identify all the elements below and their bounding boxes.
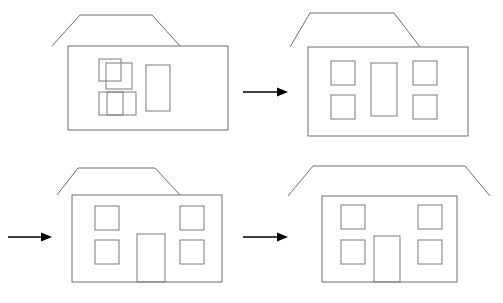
door-ground-level [374,236,400,282]
door-center-rectangle [371,63,397,116]
panel-1-house-top-left [52,15,228,130]
window-top-right [418,205,442,229]
wall-outline [308,47,468,136]
roof-outline [57,168,180,195]
window-bottom-left [331,95,355,119]
roof-outline [52,15,180,46]
arrow-head [277,88,288,97]
window-bottom-left [341,240,365,264]
drawing-canvas [0,0,503,303]
window-top-left [95,206,119,230]
panel-3-house-bottom-left [57,168,222,282]
window-top-left [341,205,365,229]
window-bottom-left [95,240,119,264]
window-top-right [413,61,437,85]
arrow-panel1-to-panel2 [243,88,288,97]
window-bottom-right [418,240,442,264]
window-upper-left-back [99,59,121,81]
window-bottom-right [180,240,204,264]
house-sequence-diagram [0,0,503,303]
door-ground-level [137,234,165,282]
panel-2-house-top-right [290,13,468,136]
window-bottom-right [413,95,437,119]
arrow-head [277,233,288,242]
wall-outline [68,46,228,130]
door-tall-rectangle [146,65,170,111]
window-top-left [331,61,355,85]
roof-outline [288,166,490,196]
arrow-panel3-to-panel4 [243,233,288,242]
arrow-head [41,233,52,242]
window-top-right [180,206,204,230]
window-upper-left-front [106,63,132,89]
panel-4-house-bottom-right [288,166,490,282]
roof-outline [290,13,420,47]
window-lower-left-back [99,92,123,115]
wall-outline [322,196,457,282]
window-lower-left-front [107,92,136,115]
arrow-panel2-to-panel3 [8,233,52,242]
